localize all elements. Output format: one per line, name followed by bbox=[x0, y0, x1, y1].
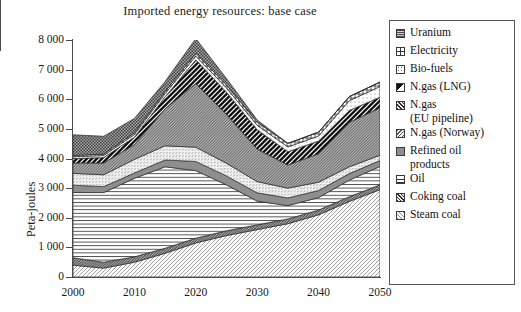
legend-item[interactable]: Bio-fuels bbox=[396, 62, 510, 79]
legend-item[interactable]: N.gas (Norway) bbox=[396, 126, 510, 143]
legend-item[interactable]: Oil bbox=[396, 172, 510, 189]
legend-item[interactable]: Coking coal bbox=[396, 190, 510, 207]
legend-swatch-icon bbox=[396, 29, 405, 38]
chart-figure: Imported energy resources: base case Pet… bbox=[0, 0, 521, 312]
y-tick-label: 8 000 bbox=[6, 34, 64, 46]
legend-item[interactable]: Electricity bbox=[396, 44, 510, 61]
x-tick-label: 2010 bbox=[112, 286, 156, 298]
legend-item[interactable]: N.gas (LNG) bbox=[396, 80, 510, 97]
plot-area bbox=[73, 40, 380, 277]
legend-swatch-icon bbox=[396, 65, 405, 74]
legend-item-label: N.gas (LNG) bbox=[410, 80, 471, 94]
x-tick-label: 2000 bbox=[51, 286, 95, 298]
legend-item-label: Steam coal bbox=[410, 208, 461, 222]
legend-swatch-icon bbox=[396, 83, 405, 92]
legend-swatch-icon bbox=[396, 47, 405, 56]
legend-swatch-icon bbox=[396, 211, 405, 220]
legend-swatch-icon bbox=[396, 129, 405, 138]
x-tick-label: 2030 bbox=[235, 286, 279, 298]
y-tick-label: 5 000 bbox=[6, 123, 64, 135]
legend-swatch-icon bbox=[396, 147, 405, 156]
x-tick-label: 2020 bbox=[174, 286, 218, 298]
legend-item-label: N.gas (EU pipeline) bbox=[410, 98, 473, 125]
legend-swatch-icon bbox=[396, 175, 405, 184]
legend-item-label: Electricity bbox=[410, 44, 458, 58]
legend-item-label: Coking coal bbox=[410, 190, 466, 204]
y-tick-label: 4 000 bbox=[6, 153, 64, 165]
y-tick-label: 6 000 bbox=[6, 93, 64, 105]
y-tick-label: 2 000 bbox=[6, 212, 64, 224]
y-tick-label: 0 bbox=[6, 271, 64, 283]
legend-item[interactable]: Uranium bbox=[396, 26, 510, 43]
x-axis-line bbox=[72, 277, 381, 278]
legend-item[interactable]: Steam coal bbox=[396, 208, 510, 225]
legend-item-label: Oil bbox=[410, 172, 425, 186]
legend-swatch-icon bbox=[396, 193, 405, 202]
legend-item[interactable]: N.gas (EU pipeline) bbox=[396, 98, 510, 125]
area-series-group bbox=[73, 40, 380, 277]
y-axis-tick-labels: 01 0002 0003 0004 0005 0006 0007 0008 00… bbox=[0, 0, 64, 312]
y-tick-label: 1 000 bbox=[6, 241, 64, 253]
x-tick-label: 2040 bbox=[297, 286, 341, 298]
legend-item[interactable]: Refined oil products bbox=[396, 144, 510, 171]
y-tick-label: 3 000 bbox=[6, 182, 64, 194]
stacked-area-plot bbox=[73, 40, 380, 277]
legend-item-label: Refined oil products bbox=[410, 144, 461, 171]
legend-swatch-icon bbox=[396, 101, 405, 110]
legend-item-label: Bio-fuels bbox=[410, 62, 453, 76]
legend: UraniumElectricityBio-fuelsN.gas (LNG)N.… bbox=[389, 20, 515, 285]
legend-item-label: Uranium bbox=[410, 26, 451, 40]
y-tick-label: 7 000 bbox=[6, 64, 64, 76]
legend-item-label: N.gas (Norway) bbox=[410, 126, 484, 140]
x-tick-label: 2050 bbox=[358, 286, 402, 298]
chart-title: Imported energy resources: base case bbox=[60, 4, 380, 19]
